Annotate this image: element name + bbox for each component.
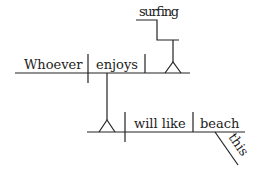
gerund-pedestal <box>165 62 181 73</box>
gerund-step-line <box>136 20 179 40</box>
word-will-like: will like <box>134 116 186 131</box>
sentence-diagram: Whoever enjoys surfing will like beach t… <box>0 0 259 176</box>
clause-pedestal <box>99 120 115 132</box>
word-beach: beach <box>200 116 240 131</box>
word-whoever: Whoever <box>24 57 83 72</box>
word-enjoys: enjoys <box>96 57 138 72</box>
word-this: this <box>226 130 252 159</box>
word-surfing: surfing <box>139 4 179 19</box>
